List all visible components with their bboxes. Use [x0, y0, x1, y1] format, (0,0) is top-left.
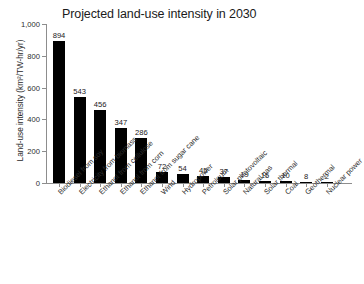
y-axis-label-container: Land-use intensity (km²/TW-hr/yr) — [0, 0, 22, 190]
y-tick-label: 600 — [0, 83, 40, 92]
bar-value-label: 286 — [135, 128, 148, 137]
bar-value-label: 543 — [73, 87, 86, 96]
y-tick-label: 1,000 — [0, 20, 40, 29]
y-tick-label: 200 — [0, 147, 40, 156]
y-tick-label: 0 — [0, 179, 40, 188]
y-axis-line — [46, 24, 47, 184]
y-tick-mark — [42, 56, 46, 57]
y-tick-mark — [42, 88, 46, 89]
y-tick-mark — [42, 151, 46, 152]
y-tick-mark — [42, 183, 46, 184]
y-tick-label: 800 — [0, 51, 40, 60]
chart-title: Projected land-use intensity in 2030 — [62, 7, 342, 21]
bar-value-label: 347 — [114, 118, 127, 127]
y-tick-mark — [42, 24, 46, 25]
bar — [53, 41, 65, 183]
bar-value-label: 456 — [94, 100, 107, 109]
bar-value-label: 8 — [304, 172, 308, 181]
bar-value-label: 894 — [53, 31, 66, 40]
y-axis-label: Land-use intensity (km²/TW-hr/yr) — [16, 21, 25, 181]
bar-value-label: 54 — [178, 164, 186, 173]
y-tick-mark — [42, 119, 46, 120]
y-tick-label: 400 — [0, 115, 40, 124]
